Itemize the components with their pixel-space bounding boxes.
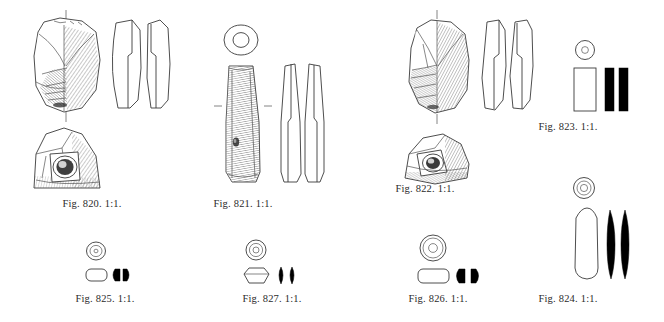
caption-figure-820: Fig. 820. 1:1. [42, 198, 142, 209]
axe-face-view [409, 20, 469, 113]
bead-side-outline [575, 208, 598, 279]
axe-butt-end-view [405, 134, 469, 184]
figure-820 [20, 8, 215, 198]
figure-824 [568, 176, 644, 286]
figure-822-drawing [395, 8, 535, 188]
bead-side-outline [418, 269, 449, 283]
axe-profile-sections [112, 20, 170, 108]
figure-826-drawing [415, 234, 487, 286]
figure-827 [240, 238, 302, 288]
bead-side-outline [244, 268, 269, 283]
bead-end-view [420, 235, 446, 261]
bead-side-outline [574, 68, 596, 111]
chisel-face-view [226, 66, 260, 182]
figure-823-drawing [570, 38, 640, 114]
chisel-ring-section [224, 25, 258, 55]
figure-821-drawing [212, 22, 342, 192]
bead-solid-sections [279, 267, 294, 284]
caption-figure-827: Fig. 827. 1:1. [222, 293, 322, 304]
figure-821 [212, 22, 342, 192]
axe-face-view [34, 18, 100, 112]
axe-butt-end-view [34, 128, 100, 188]
bead-end-view [87, 242, 106, 260]
caption-figure-822: Fig. 822. 1:1. [375, 183, 475, 194]
figure-825-drawing [82, 240, 142, 286]
bead-end-view [576, 41, 595, 60]
figure-820-drawing [20, 8, 215, 198]
bead-solid-sections [607, 210, 629, 279]
bead-end-view [246, 240, 266, 260]
illustration-plate: Fig. 820. 1:1. [0, 0, 664, 322]
figure-822 [395, 8, 535, 188]
axe-profile-sections [482, 20, 533, 110]
caption-figure-823: Fig. 823. 1:1. [518, 121, 618, 132]
figure-824-drawing [568, 176, 644, 286]
caption-figure-826: Fig. 826. 1:1. [388, 293, 488, 304]
figure-823 [570, 38, 640, 114]
bead-solid-sections [605, 68, 628, 111]
caption-figure-825: Fig. 825. 1:1. [55, 293, 155, 304]
figure-825 [82, 240, 142, 286]
figure-826 [415, 234, 487, 286]
chisel-profile-outlines [281, 64, 324, 182]
caption-figure-821: Fig. 821. 1:1. [193, 198, 293, 209]
caption-figure-824: Fig. 824. 1:1. [518, 293, 618, 304]
bead-solid-sections [457, 269, 479, 283]
bead-solid-sections [113, 269, 129, 281]
bead-end-view [574, 178, 595, 199]
bead-side-outline [86, 269, 107, 281]
figure-827-drawing [240, 238, 302, 288]
